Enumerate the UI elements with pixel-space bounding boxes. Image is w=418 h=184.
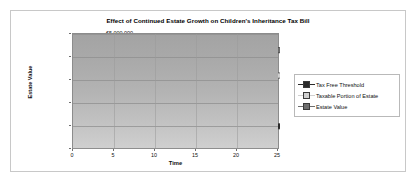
- legend-item-label: Estate Value: [315, 104, 347, 110]
- x-tick-label: 10: [143, 152, 165, 158]
- legend-item-tax-free-threshold[interactable]: Tax Free Threshold: [298, 79, 396, 90]
- x-tick-label: 5: [102, 152, 124, 158]
- x-tick-label: 25: [266, 152, 288, 158]
- x-tick-label: 0: [61, 152, 83, 158]
- x-tick-label: 15: [184, 152, 206, 158]
- x-axis-title: Time: [72, 160, 279, 166]
- legend-item-label: Tax Free Threshold: [315, 82, 364, 88]
- y-axis-title: Estate Value: [27, 52, 33, 112]
- legend-item-taxable-portion-of-estate[interactable]: Taxable Portion of Estate: [298, 90, 396, 101]
- chart-frame: Effect of Continued Estate Growth on Chi…: [10, 10, 406, 172]
- chart-legend: Tax Free Threshold Taxable Portion of Es…: [294, 74, 400, 117]
- plot-area: [72, 33, 279, 149]
- legend-swatch-icon: [298, 102, 315, 111]
- chart-title: Effect of Continued Estate Growth on Chi…: [11, 17, 405, 25]
- legend-item-estate-value[interactable]: Estate Value: [298, 101, 396, 112]
- legend-item-label: Taxable Portion of Estate: [315, 93, 378, 99]
- plot-background: [73, 34, 278, 148]
- x-tick-label: 20: [225, 152, 247, 158]
- legend-swatch-icon: [298, 91, 315, 100]
- legend-swatch-icon: [298, 80, 315, 89]
